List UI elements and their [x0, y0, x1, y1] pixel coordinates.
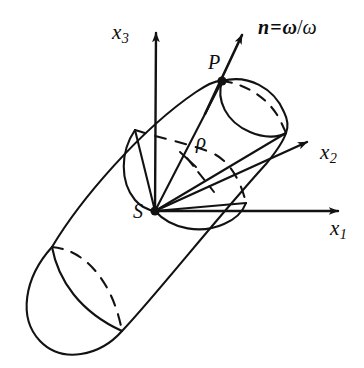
equals-sign: =: [269, 16, 282, 38]
body-silhouette-upper: [52, 81, 222, 247]
normal-vector-label: n=ω/ω: [258, 17, 317, 37]
axis-label-x1: x1: [330, 218, 347, 241]
geometry-figure: x3 x2 x1 S P ρ n=ω/ω: [0, 0, 364, 368]
omega-bold: ω: [283, 16, 297, 38]
axis-x3-line: [155, 33, 156, 211]
origin-dot: [150, 206, 159, 215]
cap-top-front-arc: [222, 79, 287, 133]
cap-bottom-ellipse-front: [52, 247, 122, 331]
section-ellipse-left-front: [124, 130, 155, 211]
axis-label-x2: x2: [320, 142, 337, 165]
cap-bottom-ellipse-back: [52, 247, 122, 331]
omega-italic: ω: [303, 16, 317, 38]
line-s-to-left-rim: [135, 130, 155, 211]
origin-label-s: S: [133, 201, 143, 221]
axis-x2-line: [155, 142, 307, 211]
cap-top-ellipse-front: [220, 81, 286, 137]
cap-top-ellipse-back: [222, 81, 286, 133]
normal-symbol-n: n: [258, 16, 269, 38]
normal-axis-arrow: [205, 35, 242, 114]
rho-label: ρ: [196, 131, 206, 152]
point-label-p: P: [208, 52, 220, 72]
point-p-dot: [217, 76, 226, 85]
cap-bottom-front-arc: [27, 247, 122, 355]
axis-label-x3: x3: [112, 22, 129, 45]
figure-canvas: [0, 0, 364, 368]
